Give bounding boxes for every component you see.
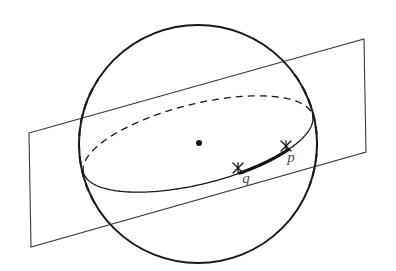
geometry-figure: p q <box>0 0 396 271</box>
sphere-plane-diagram: p q <box>0 0 396 271</box>
sphere-center-dot <box>196 140 202 146</box>
point-q-label: q <box>242 170 250 186</box>
point-p-label: p <box>286 149 295 165</box>
canvas-background <box>0 0 396 271</box>
